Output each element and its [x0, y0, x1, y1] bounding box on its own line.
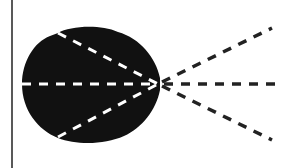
outer-dashed-rays: [162, 28, 282, 140]
outer-ray-upper: [162, 28, 272, 82]
outer-ray-lower: [162, 86, 272, 140]
radiating-lines-diagram: [0, 0, 282, 168]
